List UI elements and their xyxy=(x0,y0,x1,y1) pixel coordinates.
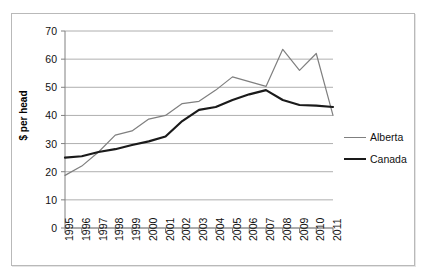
y-tick-label: 10 xyxy=(33,195,57,205)
x-tick-label: 1998 xyxy=(114,218,124,241)
x-tick-label: 2007 xyxy=(265,218,275,241)
y-tick-label: 50 xyxy=(33,82,57,92)
y-tick-label: 20 xyxy=(33,167,57,177)
legend-label-alberta: Alberta xyxy=(370,131,403,143)
y-axis-title: $ per head xyxy=(18,71,29,161)
x-tick-label: 1997 xyxy=(98,218,108,241)
x-tick-label: 2006 xyxy=(248,218,258,241)
x-tick-label: 2001 xyxy=(165,218,175,241)
x-tick-label: 2005 xyxy=(232,218,242,241)
y-tick-label: 60 xyxy=(33,54,57,64)
x-tick-label: 2002 xyxy=(181,218,191,241)
x-tick-label: 1999 xyxy=(131,218,141,241)
chart-legend: Alberta Canada xyxy=(344,126,416,170)
legend-swatch-alberta xyxy=(344,137,366,138)
legend-item-alberta: Alberta xyxy=(344,126,416,148)
legend-item-canada: Canada xyxy=(344,148,416,170)
y-tick-label: 30 xyxy=(33,139,57,149)
legend-swatch-canada xyxy=(344,158,366,160)
y-tick-label: 40 xyxy=(33,110,57,120)
x-tick-label: 2008 xyxy=(282,218,292,241)
y-tick-label: 0 xyxy=(33,223,57,233)
legend-label-canada: Canada xyxy=(370,153,407,165)
x-tick-label: 2009 xyxy=(299,218,309,241)
x-tick-label: 2011 xyxy=(332,218,342,241)
x-tick-label: 1995 xyxy=(64,218,74,241)
x-tick-label: 2000 xyxy=(148,218,158,241)
y-tick-label: 70 xyxy=(33,26,57,36)
x-tick-label: 2010 xyxy=(315,218,325,241)
x-tick-label: 2004 xyxy=(215,218,225,241)
x-tick-label: 2003 xyxy=(198,218,208,241)
x-tick-label: 1996 xyxy=(81,218,91,241)
